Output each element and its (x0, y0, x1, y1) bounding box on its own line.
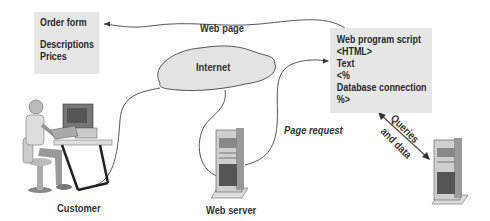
order-form-title: Order form (40, 16, 100, 28)
script-line: %> (337, 93, 432, 105)
script-line: <% (337, 69, 432, 81)
script-line: Database connection (337, 81, 432, 93)
internet-label: Internet (196, 61, 230, 73)
arrowhead-icon (323, 59, 329, 64)
page-request-label: Page request (284, 124, 343, 136)
web-page-label: Web page (200, 22, 244, 34)
arrowhead-icon (104, 22, 110, 27)
order-form-box: Order form Descriptions Prices (34, 12, 99, 74)
customer-label: Customer (57, 202, 101, 214)
customer-illustration (23, 100, 112, 193)
web-server-label: Web server (206, 204, 256, 216)
order-form-descriptions: Descriptions (40, 38, 100, 50)
order-form-prices: Prices (40, 50, 100, 62)
script-line: <HTML> (337, 45, 432, 57)
web-server-icon (211, 128, 248, 198)
script-line: Text (337, 57, 432, 69)
script-line: Web program script (337, 33, 432, 45)
database-server-icon (432, 138, 468, 204)
web-program-script-box: Web program script <HTML> Text <% Databa… (330, 28, 432, 113)
